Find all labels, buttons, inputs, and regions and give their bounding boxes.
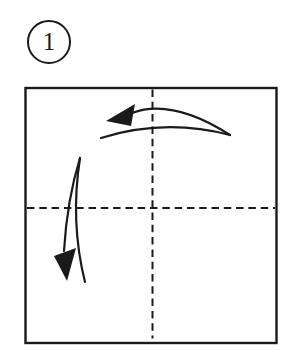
- fold-left-arrow-lower-arc: [101, 127, 230, 138]
- paper-square: [26, 88, 277, 343]
- diagram-svg: [0, 0, 305, 351]
- fold-left-arrow: [101, 104, 230, 138]
- fold-down-arrow: [54, 158, 85, 282]
- origami-step-diagram: 1: [0, 0, 305, 351]
- fold-down-arrowhead-icon: [54, 248, 76, 281]
- fold-down-arrow-outer-arc: [76, 158, 85, 282]
- fold-left-arrowhead-icon: [106, 104, 135, 126]
